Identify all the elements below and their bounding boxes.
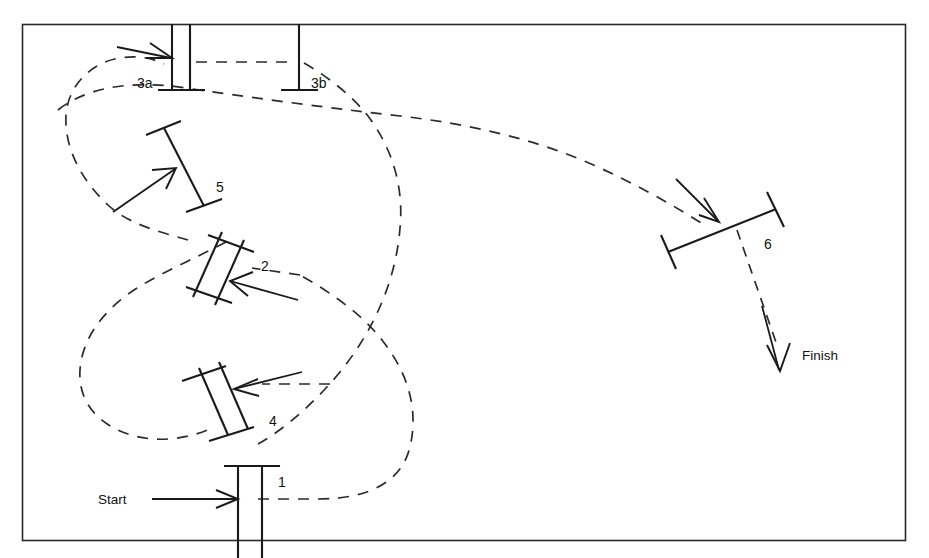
arrow-to-3a	[117, 43, 172, 58]
route-segment-6-to-finish	[737, 230, 778, 348]
arena-border	[23, 25, 906, 541]
route-segment-3b-to-6	[258, 63, 401, 444]
fence-1	[224, 466, 280, 558]
start-label: Start	[98, 492, 127, 507]
fence-label-1: 1	[278, 474, 286, 490]
start-arrow	[152, 490, 238, 508]
route-segment-2-to-3a	[66, 57, 188, 240]
arrow-to-6	[676, 179, 719, 222]
fence-label-2: 2	[261, 258, 269, 274]
fence-5	[146, 121, 222, 212]
fence-4	[182, 362, 254, 441]
fence-label-3a: 3a	[137, 75, 153, 91]
route-segment-approach-2	[252, 268, 300, 275]
fence-label-5: 5	[216, 179, 224, 195]
fence-label-6: 6	[764, 236, 772, 252]
fence-label-4: 4	[269, 413, 277, 429]
route-segment-1-to-2	[258, 275, 413, 499]
course-diagram: 1 2 3a 3b 4	[0, 0, 929, 558]
finish-label: Finish	[802, 348, 838, 363]
course-canvas: 1 2 3a 3b 4	[0, 0, 929, 558]
arrow-to-5	[113, 168, 176, 212]
fence-label-3b: 3b	[311, 75, 327, 91]
fence-6	[661, 192, 784, 269]
fence-2	[186, 232, 254, 305]
route-segment-sweep-right	[58, 85, 706, 226]
arrow-to-2	[230, 272, 298, 300]
